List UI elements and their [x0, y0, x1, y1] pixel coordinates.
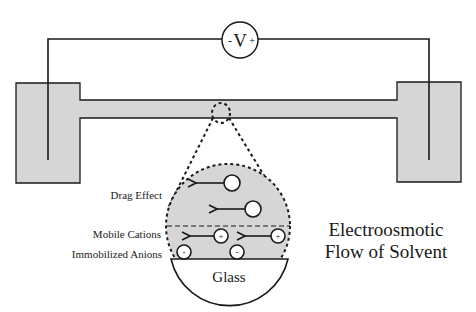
drag-effect-label: Drag Effect [111, 189, 162, 201]
title-line-1: Electroosmotic [328, 219, 443, 240]
immobilized-anion: - [177, 245, 191, 259]
voltmeter-symbol: V [233, 30, 247, 51]
anion-sign: - [183, 247, 186, 257]
cation-sign: + [276, 232, 281, 241]
voltmeter-plus: + [249, 34, 255, 46]
cation-sign: + [219, 232, 224, 241]
immobilized-anion: - [230, 245, 244, 259]
mobile-cations-label: Mobile Cations [93, 228, 161, 240]
voltmeter-minus: - [228, 34, 232, 48]
magnified-view: Glass + + - - [160, 160, 300, 306]
immobilized-anions-label: Immobilized Anions [72, 248, 162, 260]
title-line-2: Flow of Solvent [325, 241, 448, 262]
voltmeter: - V + [222, 22, 258, 58]
anion-sign: - [236, 247, 239, 257]
glass-label: Glass [212, 269, 245, 285]
electroosmotic-flow-diagram: - V + Glass + [0, 0, 476, 312]
